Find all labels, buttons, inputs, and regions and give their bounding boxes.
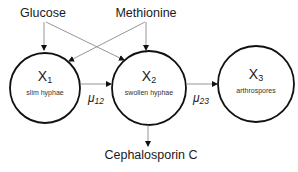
state-node-x1 <box>10 53 80 123</box>
state-label-x3: X3 <box>249 66 263 83</box>
rate-label-mu12: μ12 <box>88 91 104 106</box>
state-index: 2 <box>151 75 156 85</box>
pathway-diagram <box>0 0 298 172</box>
state-index: 1 <box>47 75 52 85</box>
state-var: X <box>38 68 47 84</box>
state-index: 3 <box>258 73 263 83</box>
state-desc-x1: slim hyphae <box>26 89 63 96</box>
arrow-glucose-to-x2 <box>46 22 124 60</box>
input-label-glucose: Glucose <box>20 6 66 20</box>
state-var: X <box>249 66 258 82</box>
state-node-x3 <box>218 46 294 122</box>
state-var: X <box>142 68 151 84</box>
state-desc-x3: arthrospores <box>236 87 275 94</box>
rate-index: 23 <box>200 96 209 106</box>
state-label-x1: X1 <box>38 68 52 85</box>
input-label-methionine: Methionine <box>115 6 176 20</box>
state-desc-x2: swollen hyphae <box>125 89 173 96</box>
state-label-x2: X2 <box>142 68 156 85</box>
state-node-x2 <box>112 51 186 125</box>
product-label-cephalosporin-c: Cephalosporin C <box>104 148 197 162</box>
rate-index: 12 <box>95 96 104 106</box>
rate-label-mu23: μ23 <box>193 91 209 106</box>
